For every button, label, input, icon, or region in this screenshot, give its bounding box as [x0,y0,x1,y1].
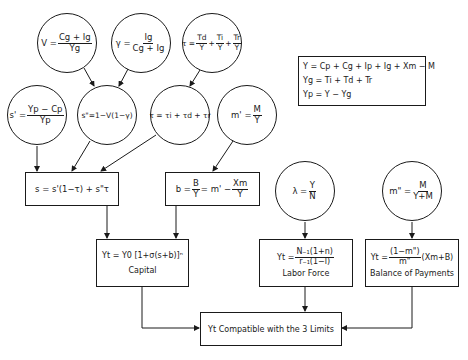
bop-denominator: m" [398,258,411,267]
circle-gamma-ratio: γ = IgCg + Ig [111,13,171,73]
gamma-numerator: Ig [143,33,153,43]
box-compatible-output: Yt Compatible with the 3 Limits [200,312,342,346]
labor-force-label: Labor Force [283,269,330,278]
box-balance-of-payments-limit: Yt = (1−m")m" (Xm+B) Balance of Payments [365,239,459,287]
circle-m-double-prime: m" = MY+M [382,161,442,221]
box-labor-force-limit: Yt = N₋₁(1+n)r₋₁(1−l) Labor Force [259,239,353,287]
b-middle: = m' − [201,184,231,194]
m-double-prime-numerator: M [418,181,427,191]
xm-denominator: Y [237,190,244,199]
m-prime-lhs: m' = [231,110,251,120]
circle-m-prime: m' = MY [217,85,277,145]
final-result-text: Yt Compatible with the 3 Limits [208,325,334,334]
m-double-prime-denominator: Y+M [412,192,434,201]
balance-of-payments-label: Balance of Payments [370,269,454,278]
tr-denominator: Y [233,44,240,52]
labor-lhs: Yt = [277,253,294,262]
m-double-prime-lhs: m" = [389,186,411,196]
circle-lambda: λ = YN [275,161,335,221]
s-double-prime-equation: s"=1−V(1−γ) [81,111,132,120]
identity-yg: Yg = Ti + Td + Tr [303,74,421,88]
m-prime-denominator: Y [254,116,261,125]
identity-y: Y = Cp + Cg + Ip + Ig + Xm − M [303,60,421,74]
xm-numerator: Xm [232,179,248,189]
s-prime-denominator: Yp [39,116,52,125]
capital-equation: Yt = Y0 [1+σ(s+b)]ⁿ [102,251,183,260]
labor-denominator: r₋₁(1−l) [298,258,331,267]
lambda-numerator: Y [309,181,316,191]
tau-sum-equation: τ = τi + τd + τr [149,111,210,120]
capital-label: Capital [128,266,156,275]
ti-denominator: Y [217,44,224,52]
identities-legend-box: Y = Cp + Cg + Ip + Ig + Xm − M Yg = Ti +… [298,56,426,106]
b-lhs: b = [176,184,191,194]
lambda-lhs: λ = [292,186,307,196]
savings-equation: s = s'(1−τ) + s"τ [35,184,109,194]
box-b-ratio: b = BY = m' − XmY [165,172,260,206]
circle-s-prime: s' = Yp − CpYp [7,85,67,145]
v-lhs: V = [41,38,57,48]
circle-v-ratio: V = Cg + IgYg [37,13,97,73]
box-capital-limit: Yt = Y0 [1+σ(s+b)]ⁿ Capital [96,239,189,287]
circle-tau-tax-ratios: τ = TdY+ TiY+ TrY [182,13,242,73]
circle-tau-sum: τ = τi + τd + τr [150,85,210,145]
tau-lhs: τ = [182,39,195,48]
v-denominator: Yg [69,44,82,53]
td-denominator: Y [199,44,206,52]
gamma-lhs: γ = [116,38,131,48]
b-denominator: Y [192,190,199,199]
b-numerator: B [192,179,200,189]
s-prime-numerator: Yp − Cp [27,105,63,115]
circle-s-double-prime: s"=1−V(1−γ) [77,85,137,145]
s-prime-lhs: s' = [9,110,26,120]
m-prime-numerator: M [253,105,262,115]
bop-rhs: (Xm+B) [422,253,454,262]
gamma-denominator: Cg + Ig [132,44,166,53]
lambda-denominator: N [308,192,316,201]
v-numerator: Cg + Ig [58,33,92,43]
bop-lhs: Yt = [371,253,388,262]
identity-yp: Yp = Y − Yg [303,88,421,102]
box-savings-rate: s = s'(1−τ) + s"τ [25,172,119,206]
